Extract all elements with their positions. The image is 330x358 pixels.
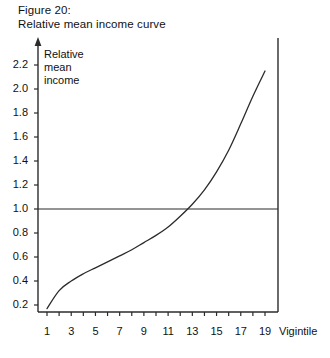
x-axis-tick-label: 17 <box>232 325 250 337</box>
x-axis-tick-label: 5 <box>86 325 104 337</box>
y-axis-tick-label: 0.6 <box>4 250 28 262</box>
x-axis-title: Vigintile <box>279 325 317 338</box>
x-axis-tick-label: 1 <box>38 325 56 337</box>
y-axis-tick-label: 1.8 <box>4 106 28 118</box>
y-axis-tick-label: 1.0 <box>4 202 28 214</box>
y-axis-tick-label: 1.2 <box>4 178 28 190</box>
y-axis-title: Relativemeanincome <box>44 48 84 88</box>
y-axis-tick-label: 0.2 <box>4 298 28 310</box>
y-axis-tick-label: 2.2 <box>4 58 28 70</box>
x-axis-tick-label: 19 <box>256 325 274 337</box>
x-axis-tick-label: 11 <box>159 325 177 337</box>
y-axis-title-line2: mean <box>44 61 72 73</box>
x-axis-tick-label: 7 <box>111 325 129 337</box>
x-axis-tick-label: 15 <box>208 325 226 337</box>
income-curve-line <box>47 71 265 309</box>
y-axis-title-line1: Relative <box>44 48 84 60</box>
figure-container: Figure 20: Relative mean income curve Re… <box>0 0 330 358</box>
x-axis-tick-label: 9 <box>135 325 153 337</box>
y-axis-tick-label: 1.6 <box>4 130 28 142</box>
x-axis-tick-label: 13 <box>183 325 201 337</box>
y-axis-tick-label: 2.0 <box>4 82 28 94</box>
y-axis-arrow-icon <box>35 37 42 46</box>
y-axis-tick-label: 0.4 <box>4 274 28 286</box>
x-axis-tick-label: 3 <box>62 325 80 337</box>
y-axis-tick-label: 0.8 <box>4 226 28 238</box>
y-axis-title-line3: income <box>44 74 79 86</box>
y-axis-tick-label: 1.4 <box>4 154 28 166</box>
